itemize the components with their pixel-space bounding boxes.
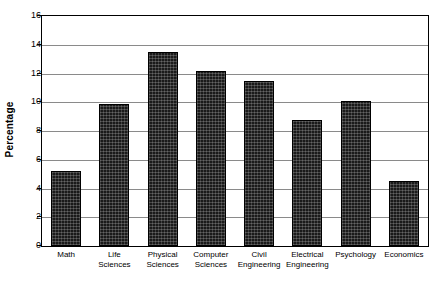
x-category-label: LifeSciences bbox=[90, 250, 138, 270]
y-tick-label: 6 bbox=[7, 154, 41, 163]
x-category-label-line: Economics bbox=[380, 250, 428, 260]
x-category-label-line: Sciences bbox=[139, 260, 187, 270]
x-category-label-line: Electrical bbox=[283, 250, 331, 260]
x-category-label: Psychology bbox=[332, 250, 380, 260]
gridline bbox=[42, 74, 428, 75]
bar-civil-engineering bbox=[244, 81, 274, 246]
y-tick-label: 10 bbox=[7, 97, 41, 106]
plot-inner bbox=[42, 16, 428, 246]
y-tick-label: 4 bbox=[7, 183, 41, 192]
gridline bbox=[42, 45, 428, 46]
x-category-label-line: Computer bbox=[187, 250, 235, 260]
x-category-label-line: Engineering bbox=[283, 260, 331, 270]
bar-chart: Percentage 1614121086420 MathLifeScience… bbox=[0, 0, 438, 284]
x-category-label: Math bbox=[42, 250, 90, 260]
x-category-label-line: Engineering bbox=[235, 260, 283, 270]
x-category-label: ComputerSciences bbox=[187, 250, 235, 270]
x-axis: MathLifeSciencesPhysicalSciencesComputer… bbox=[42, 250, 427, 284]
y-tick-label: 0 bbox=[7, 241, 41, 250]
bar-economics bbox=[389, 181, 419, 246]
x-category-label: CivilEngineering bbox=[235, 250, 283, 270]
x-category-label-line: Physical bbox=[139, 250, 187, 260]
x-category-label-line: Psychology bbox=[332, 250, 380, 260]
y-axis: 1614121086420 bbox=[0, 15, 41, 245]
y-tick-label: 16 bbox=[7, 11, 41, 20]
plot-area bbox=[41, 15, 429, 247]
y-tick-label: 2 bbox=[7, 212, 41, 221]
x-category-label-line: Sciences bbox=[90, 260, 138, 270]
bar-life-sciences bbox=[99, 104, 129, 246]
y-tick-label: 8 bbox=[7, 126, 41, 135]
bar-electrical-engineering bbox=[292, 120, 322, 247]
bar-psychology bbox=[341, 101, 371, 246]
x-category-label-line: Civil bbox=[235, 250, 283, 260]
x-category-label-line: Sciences bbox=[187, 260, 235, 270]
x-category-label-line: Math bbox=[42, 250, 90, 260]
bar-computer-sciences bbox=[196, 71, 226, 246]
bar-math bbox=[51, 171, 81, 246]
y-tick-label: 12 bbox=[7, 68, 41, 77]
bar-physical-sciences bbox=[148, 52, 178, 246]
x-category-label: Economics bbox=[380, 250, 428, 260]
x-category-label: ElectricalEngineering bbox=[283, 250, 331, 270]
x-category-label-line: Life bbox=[90, 250, 138, 260]
y-tick-label: 14 bbox=[7, 39, 41, 48]
x-category-label: PhysicalSciences bbox=[139, 250, 187, 270]
